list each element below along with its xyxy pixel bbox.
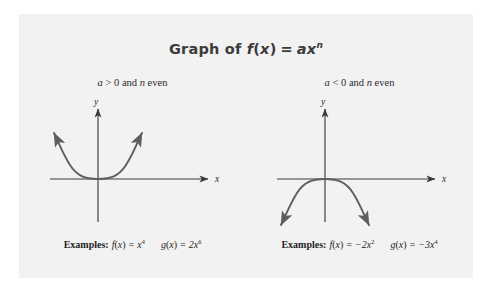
graph-a-positive: x y	[19, 94, 246, 229]
examples-right-item-1: f(x) = −2x2	[329, 239, 374, 250]
title-base: x	[307, 41, 317, 57]
title-var: x	[260, 41, 270, 57]
caption-right-relation: < 0	[332, 77, 346, 88]
caption-left-parity: even	[148, 77, 168, 88]
examples-right: Examples:f(x) = −2x2g(x) = −3x4	[246, 238, 473, 250]
title-equals: =	[276, 41, 296, 57]
graph-left-svg: x y	[19, 94, 246, 229]
examples-left: Examples:f(x) = x4g(x) = 2x6	[19, 238, 246, 250]
title-exponent: n	[316, 40, 323, 50]
caption-right-coef: a	[325, 77, 330, 88]
caption-left: a > 0 and n even	[19, 77, 246, 88]
curve-right-branch-right	[325, 179, 369, 225]
caption-left-conj: and	[122, 77, 137, 88]
curve-left-branch-right	[98, 133, 142, 179]
graph-a-negative: x y	[246, 94, 473, 229]
curve-right-branch-left	[281, 179, 325, 225]
graph-right-svg: x y	[246, 94, 473, 229]
title-prefix: Graph of	[169, 41, 241, 57]
caption-right-expvar: n	[367, 77, 372, 88]
caption-right-parity: even	[375, 77, 395, 88]
figure-root: Graph of f(x)=axn a > 0 and n even a < 0…	[0, 0, 493, 294]
caption-right: a < 0 and n even	[246, 77, 473, 88]
x-axis-label-left: x	[214, 174, 220, 184]
y-axis-label-left: y	[93, 97, 99, 107]
caption-left-coef: a	[98, 77, 103, 88]
caption-left-relation: > 0	[105, 77, 119, 88]
examples-left-item-1: f(x) = x4	[112, 239, 145, 250]
caption-left-expvar: n	[140, 77, 145, 88]
figure-title: Graph of f(x)=axn	[19, 40, 473, 57]
examples-right-lead: Examples:	[281, 239, 326, 250]
x-axis-label-right: x	[441, 174, 447, 184]
title-coef: a	[297, 41, 307, 57]
examples-left-lead: Examples:	[64, 239, 109, 250]
y-axis-label-right: y	[320, 97, 326, 107]
examples-left-item-2: g(x) = 2x6	[161, 239, 201, 250]
examples-right-item-2: g(x) = −3x4	[390, 239, 437, 250]
curve-left-branch-left	[54, 133, 98, 179]
figure-panel: Graph of f(x)=axn a > 0 and n even a < 0…	[19, 14, 473, 278]
caption-right-conj: and	[349, 77, 364, 88]
